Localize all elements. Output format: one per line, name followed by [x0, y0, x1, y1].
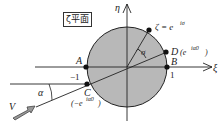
tick-one: 1: [170, 70, 175, 80]
C-close: ): [97, 99, 101, 108]
D-exp: iα0: [191, 45, 199, 51]
zeta-exp: iσ: [180, 20, 186, 26]
xi-label: ξ: [213, 62, 218, 74]
point-zeta: [146, 27, 151, 32]
flow-arrow-icon: [13, 106, 35, 120]
C-value: (−e: [71, 99, 83, 108]
alpha-label: α: [38, 87, 44, 98]
conformal-diagram: η ξ ζ = e iσ D (e iα0 ) σ A B 1 −1 C (−e…: [0, 0, 220, 126]
point-A: [83, 64, 88, 69]
alpha-arc: [49, 84, 52, 100]
C-exp: iα0: [86, 96, 94, 102]
V-label: V: [9, 101, 17, 112]
A-label: A: [75, 55, 83, 66]
eta-label: η: [115, 2, 120, 13]
point-C: [84, 81, 89, 86]
D-value: (e: [180, 48, 187, 57]
point-B: [164, 64, 169, 69]
B-label: B: [171, 56, 177, 67]
D-close: ): [204, 48, 208, 57]
sigma-label: σ: [141, 47, 146, 57]
tick-minus-one: −1: [70, 72, 80, 82]
zeta-label: ζ = e: [155, 22, 173, 32]
point-D: [163, 49, 168, 54]
